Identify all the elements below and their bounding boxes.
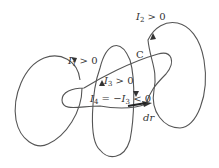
label-I2: I2 > 0 — [136, 12, 166, 24]
label-I1: I1 > 0 — [68, 56, 98, 68]
current-loop-2 — [148, 22, 205, 128]
label-I4: I4 = −I3 < 0 — [90, 94, 151, 106]
label-dr: dr — [143, 113, 154, 123]
current-loop-1 — [15, 56, 82, 146]
label-I3: I3 > 0 — [104, 76, 134, 88]
label-curve-c: C — [136, 50, 144, 60]
